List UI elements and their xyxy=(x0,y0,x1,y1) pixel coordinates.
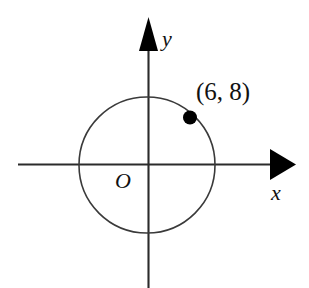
coordinate-plane-diagram: y x O (6, 8) xyxy=(0,0,309,288)
point-marker xyxy=(183,111,197,125)
x-axis-arrow-icon xyxy=(270,149,296,180)
y-axis-arrow-icon xyxy=(139,17,158,51)
y-axis-label: y xyxy=(160,26,172,51)
x-axis-label: x xyxy=(270,180,281,205)
figure-canvas: y x O (6, 8) xyxy=(0,0,309,288)
point-coordinate-label: (6, 8) xyxy=(196,78,250,106)
origin-label: O xyxy=(115,168,131,193)
